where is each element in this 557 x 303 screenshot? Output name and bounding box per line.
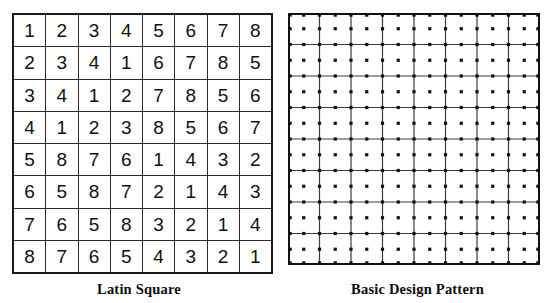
latin-cell: 1 [78,79,110,111]
lattice-dot [444,216,447,219]
lattice-dot [428,185,431,188]
lattice-dot [523,216,526,219]
lattice-dot [397,90,400,93]
lattice-dot [475,14,478,17]
lattice-dot [412,74,415,77]
lattice-dot [318,137,321,140]
lattice-dot [302,90,305,93]
lattice-dot [523,137,526,140]
lattice-dot [365,169,368,172]
latin-cell: 2 [143,176,175,208]
latin-square-panel: 1 2 3 4 5 6 7 8 2 3 4 1 6 7 8 5 [0,0,278,303]
lattice-dot [318,200,321,203]
lattice-dot [302,122,305,125]
lattice-dot [381,14,384,17]
latin-cell: 5 [175,111,207,143]
lattice-dot [397,169,400,172]
lattice-dot [397,216,400,219]
latin-cell: 5 [239,47,272,79]
lattice-dot [536,59,539,62]
lattice-dot [381,90,384,93]
lattice-dot [365,59,368,62]
lattice-dot [428,74,431,77]
lattice-dot [397,106,400,109]
latin-cell: 6 [239,79,272,111]
lattice-dot [289,153,292,156]
latin-cell: 2 [13,47,46,79]
design-pattern-caption: Basic Design Pattern [278,281,557,298]
lattice-dot [536,153,539,156]
lattice-dot [491,200,494,203]
lattice-dot [318,261,321,264]
lattice-dot [491,43,494,46]
latin-square-caption: Latin Square [0,281,278,298]
lattice-dot [381,137,384,140]
lattice-dot [289,200,292,203]
lattice-dot [475,261,478,264]
lattice-dot [460,122,463,125]
lattice-dot [460,137,463,140]
lattice-dot [460,248,463,251]
latin-cell: 6 [46,208,78,240]
latin-cell: 8 [46,144,78,176]
latin-cell: 8 [13,240,46,273]
lattice-dot [412,14,415,17]
lattice-dot [289,185,292,188]
latin-square-body: 1 2 3 4 5 6 7 8 2 3 4 1 6 7 8 5 [13,14,272,273]
lattice-dot [334,59,337,62]
lattice-dot [349,59,352,62]
lattice-dot [444,14,447,17]
lattice-dot [318,185,321,188]
lattice-dot [397,137,400,140]
lattice-dot [523,90,526,93]
lattice-dot [365,200,368,203]
lattice-dot [523,153,526,156]
lattice-dot [349,153,352,156]
lattice-dot [349,74,352,77]
lattice-dot [334,43,337,46]
lattice-dot [536,74,539,77]
lattice-dot [536,27,539,30]
latin-cell: 1 [110,47,142,79]
table-row: 2 3 4 1 6 7 8 5 [13,47,272,79]
lattice-dot [381,232,384,235]
lattice-dot [536,169,539,172]
lattice-dot [428,261,431,264]
lattice-dot [412,216,415,219]
lattice-dot [381,261,384,264]
latin-cell: 1 [46,111,78,143]
lattice-dot [412,153,415,156]
lattice-dot [334,232,337,235]
lattice-dot [536,216,539,219]
lattice-dot [428,90,431,93]
lattice-dot [523,59,526,62]
lattice-dot [318,59,321,62]
lattice-dot [460,216,463,219]
lattice-dot [289,261,292,264]
lattice-dot [444,106,447,109]
lattice-dot [289,122,292,125]
lattice-dot [507,122,510,125]
lattice-dot [428,200,431,203]
latin-cell: 8 [143,111,175,143]
lattice-dot [412,59,415,62]
lattice-dot [302,248,305,251]
lattice-dot [334,153,337,156]
lattice-dot [523,14,526,17]
lattice-dot [475,153,478,156]
lattice-dot [365,248,368,251]
lattice-dot [412,232,415,235]
lattice-dot [491,261,494,264]
lattice-dot [460,153,463,156]
latin-cell: 8 [175,79,207,111]
lattice-dot [334,169,337,172]
lattice-dot [536,200,539,203]
latin-cell: 1 [175,176,207,208]
lattice-dot [397,74,400,77]
lattice-dot [460,43,463,46]
lattice-dot [318,232,321,235]
lattice-dot [397,153,400,156]
latin-cell: 4 [110,14,142,47]
lattice-dot [523,43,526,46]
latin-cell: 3 [110,111,142,143]
